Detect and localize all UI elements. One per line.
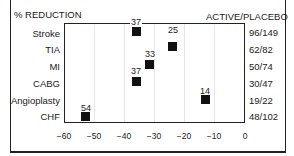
category-label-cabg: CABG [33,78,60,89]
data-marker-chf [81,112,90,121]
data-marker-tia [168,42,177,51]
y-axis-title: % REDUCTION [14,9,82,20]
value-label-cabg: 37 [130,67,142,76]
gridline [214,24,215,122]
category-label-mi: MI [49,61,60,72]
ratio-mi: 50/74 [249,61,273,72]
data-marker-angioplasty [201,95,210,104]
x-tick-label: −50 [87,131,101,141]
category-label-tia: TIA [45,44,60,55]
gridline [124,24,125,122]
value-label-mi: 33 [144,50,156,59]
right-column-header: ACTIVE/PLACEBO [206,11,288,22]
category-label-angioplasty: Angioplasty [11,95,60,106]
x-tick-label: −10 [207,131,221,141]
ratio-cabg: 30/47 [249,78,273,89]
data-marker-mi [145,60,154,69]
ratio-chf: 48/102 [249,111,278,122]
x-tick-label: −30 [147,131,161,141]
x-tick-label: −60 [57,131,71,141]
x-tick-label: −40 [117,131,131,141]
category-label-chf: CHF [40,111,60,122]
x-tick-label: 0 [243,131,248,141]
ratio-stroke: 96/149 [249,27,278,38]
data-marker-stroke [132,27,141,36]
ratio-tia: 62/82 [249,44,273,55]
data-marker-cabg [132,77,141,86]
gridline [184,24,185,122]
value-label-tia: 25 [167,26,179,35]
gridline [94,24,95,122]
x-tick-label: −20 [177,131,191,141]
gridline [154,24,155,122]
value-label-stroke: 37 [130,18,142,27]
ratio-angioplasty: 19/22 [249,95,273,106]
category-label-stroke: Stroke [33,28,60,39]
